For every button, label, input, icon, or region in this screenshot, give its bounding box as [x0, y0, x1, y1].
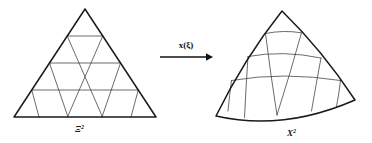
- mesh-line: [131, 90, 138, 117]
- physical-domain-label-exponent: 2: [292, 128, 296, 134]
- mesh-line: [337, 81, 341, 107]
- mesh-line: [32, 90, 39, 117]
- mesh-line: [248, 54, 321, 58]
- mesh-line: [228, 81, 232, 112]
- physical-mesh-right-diagonals: [228, 34, 277, 118]
- mesh-line: [245, 57, 249, 118]
- reference-domain-label: Ξ2: [75, 124, 84, 135]
- reference-mesh-right-diagonals: [32, 36, 103, 117]
- reference-domain-label-exponent: 2: [80, 124, 84, 130]
- mesh-line: [277, 33, 302, 115]
- reference-mesh-left-diagonals: [68, 36, 139, 117]
- arrow-head-icon: [206, 53, 213, 61]
- mapping-arrow-group: x(ξ): [160, 40, 213, 61]
- physical-mesh-rows: [232, 31, 341, 80]
- figure-canvas: Ξ2 x(ξ): [0, 0, 372, 143]
- mesh-line: [266, 34, 278, 116]
- physical-domain-label: X2: [286, 128, 296, 139]
- mesh-line: [312, 58, 322, 111]
- physical-element-group: X2: [216, 11, 355, 138]
- mesh-line: [266, 31, 302, 33]
- reference-mesh-horizontal: [32, 36, 139, 90]
- mapping-label: x(ξ): [179, 40, 194, 50]
- physical-element-outline: [216, 11, 355, 121]
- diagram-svg: Ξ2 x(ξ): [0, 0, 372, 143]
- reference-triangle-group: Ξ2: [14, 9, 156, 134]
- physical-mesh-left-diagonals: [277, 33, 341, 115]
- mesh-line: [232, 76, 341, 81]
